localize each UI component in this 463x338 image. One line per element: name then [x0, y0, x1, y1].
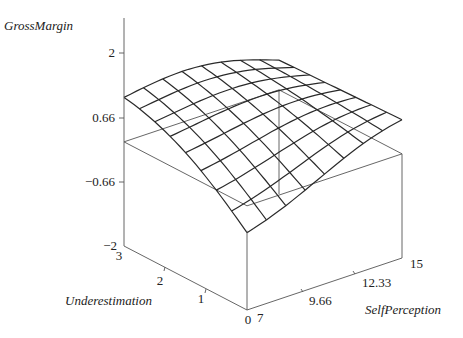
x-axis-title: Underestimation: [65, 293, 152, 308]
z-tick-label: −0.66: [85, 174, 116, 189]
surface-plot: 2 0.66 −0.66 −2 3 2 1 0 7 9.66 12.33 15 …: [0, 0, 463, 338]
x-tick-mark: [164, 267, 165, 271]
mesh-line: [124, 97, 247, 232]
x-tick-label: 0: [245, 312, 252, 327]
surface-mesh: [124, 60, 402, 233]
mesh-line: [155, 75, 310, 122]
box-edge: [279, 90, 402, 154]
x-tick-label: 2: [157, 273, 164, 288]
mesh-line: [143, 88, 266, 220]
x-tick-mark: [205, 289, 206, 293]
mesh-line: [202, 66, 325, 174]
y-axis-title: SelfPerception: [365, 302, 441, 317]
mesh-line: [260, 60, 383, 131]
x-tick-label: 3: [116, 248, 123, 263]
y-tick-label: 15: [410, 256, 423, 271]
plot-box-back: [124, 90, 402, 310]
z-tick-label: 2: [109, 45, 116, 60]
box-edge: [124, 142, 247, 206]
mesh-line: [247, 120, 402, 233]
y-tick-label: 12.33: [362, 275, 391, 290]
x-tick-label: 1: [198, 291, 205, 306]
mesh-line: [279, 60, 402, 120]
z-tick-label: 0.66: [92, 110, 115, 125]
box-edge: [247, 154, 402, 206]
mesh-line: [221, 62, 344, 158]
z-axis-title: GrossMargin: [4, 18, 73, 33]
mesh-line: [170, 83, 325, 137]
x-axis-ticks: 3 2 1 0: [116, 248, 252, 327]
z-axis-ticks: 2 0.66 −0.66 −2: [85, 45, 124, 253]
y-tick-label: 9.66: [309, 293, 332, 308]
y-tick-label: 7: [257, 310, 264, 325]
y-tick-mark: [353, 271, 355, 274]
mesh-line: [124, 60, 279, 98]
mesh-line: [163, 79, 286, 206]
